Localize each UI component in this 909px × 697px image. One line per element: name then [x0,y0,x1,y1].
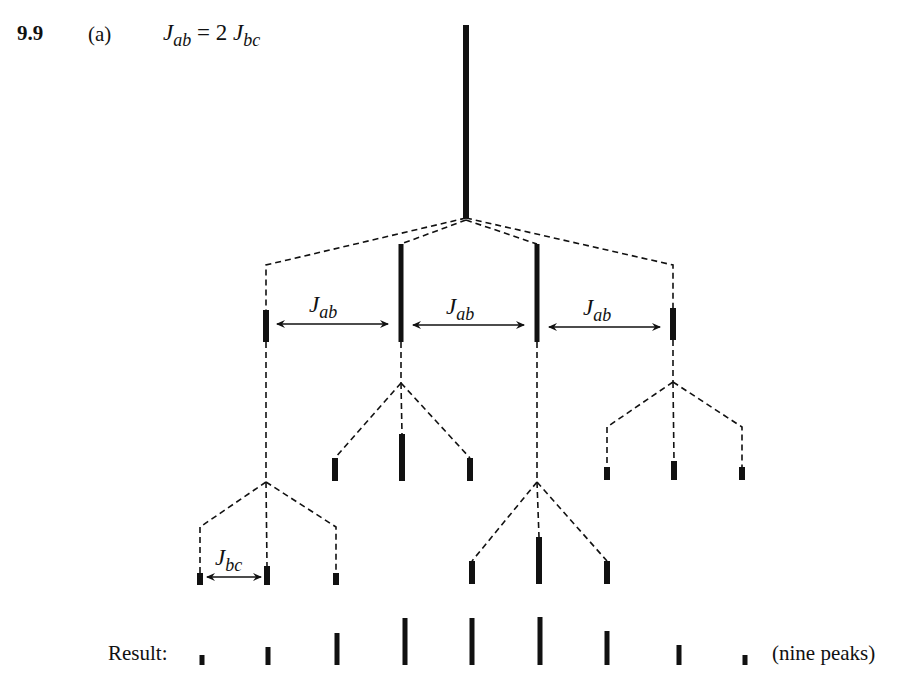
level2-peak [332,458,338,481]
result-peak [605,631,610,665]
level1-peak [535,244,540,342]
level2-peak [671,461,677,480]
jab-symbol: J [583,295,593,320]
jab-sub: ab [319,302,337,322]
jab-label-3: Jab [583,295,611,326]
level2-peak [604,467,610,480]
level2-branch-line [335,383,401,458]
splitting-tree-diagram [0,0,909,697]
level2-branch-line [266,482,267,566]
level2-peak [399,434,405,481]
level2-peak [467,458,473,481]
coupling-arrows [207,324,660,577]
result-label: Result: [108,641,168,666]
level2-peak [197,573,203,585]
root-peak [463,25,469,218]
jab-sub: ab [593,305,611,325]
jab-label-1: Jab [309,292,337,323]
level2-branch-line [673,382,674,461]
level2-branch-line [537,482,539,537]
level2-branch-line [673,382,742,467]
splitting-dashed-lines [200,218,742,573]
level2-peak [739,467,745,480]
result-peak [677,645,682,665]
jbc-label: Jbc [215,545,242,576]
level2-branch-line [401,383,402,434]
level1-branch-line [401,220,466,244]
level2-peak [536,537,542,584]
level2-branch-line [266,482,336,573]
jab-symbol: J [309,292,319,317]
jab-symbol: J [446,294,456,319]
result-note: (nine peaks) [772,641,875,666]
level1-peak [263,310,269,342]
level2-branch-line [472,482,537,561]
level2-branch-line [401,383,470,458]
level2-peak [604,561,610,584]
result-peak [743,655,748,665]
level2-branch-line [537,482,607,561]
level1-peak [399,244,404,342]
jab-sub: ab [456,304,474,324]
level2-branch-line [607,382,673,467]
level1-peak [670,308,676,340]
jab-label-2: Jab [446,294,474,325]
level2-peak [469,561,475,584]
result-peak [200,655,205,665]
jbc-sub: bc [225,555,242,575]
peak-bars [197,25,748,665]
result-peak [538,617,543,665]
result-peak [266,647,271,665]
result-peak [470,618,475,665]
level2-peak [264,566,270,585]
result-peak [403,618,408,665]
result-peak [335,633,340,665]
jbc-symbol: J [215,545,225,570]
level1-branch-line [466,218,673,308]
level2-peak [333,573,339,585]
